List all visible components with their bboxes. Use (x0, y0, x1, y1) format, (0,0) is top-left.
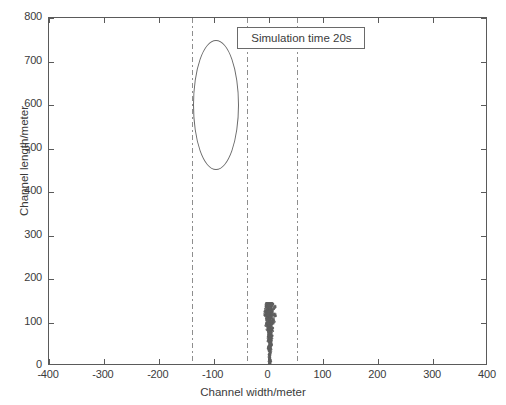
x-tick-mark-top (433, 18, 434, 23)
x-tick-mark (433, 359, 434, 364)
x-tick-mark-top (269, 18, 270, 23)
x-tick-mark (378, 359, 379, 364)
channel-boundary-left (192, 18, 193, 364)
x-tick-mark-top (214, 18, 215, 23)
y-tick-mark-right (481, 279, 486, 280)
y-tick-mark (49, 62, 54, 63)
y-tick-mark (49, 279, 54, 280)
concentration-contour (193, 40, 239, 171)
x-axis-label: Channel width/meter (0, 386, 506, 398)
y-tick-mark-right (481, 149, 486, 150)
y-tick-label: 300 (8, 228, 42, 240)
x-tick-label: 400 (465, 368, 506, 380)
x-tick-label: 300 (410, 368, 454, 380)
x-tick-label: -200 (136, 368, 180, 380)
y-tick-mark (49, 18, 54, 19)
x-tick-mark-top (104, 18, 105, 23)
x-tick-label: -300 (81, 368, 125, 380)
y-tick-label: 500 (8, 141, 42, 153)
x-tick-mark-top (159, 18, 160, 23)
x-tick-mark (323, 359, 324, 364)
y-tick-label: 800 (8, 10, 42, 22)
x-tick-mark (49, 359, 50, 364)
y-tick-mark (49, 192, 54, 193)
plot-area: Simulation time 20s (48, 17, 487, 365)
y-tick-mark (49, 323, 54, 324)
particle-plume (261, 302, 281, 365)
x-tick-label: -100 (191, 368, 235, 380)
x-tick-label: 200 (355, 368, 399, 380)
y-tick-mark (49, 149, 54, 150)
y-tick-label: 700 (8, 54, 42, 66)
y-tick-label: 600 (8, 97, 42, 109)
y-tick-mark-right (481, 323, 486, 324)
x-tick-mark-top (378, 18, 379, 23)
x-tick-mark (104, 359, 105, 364)
y-tick-mark (49, 105, 54, 106)
y-tick-label: 200 (8, 271, 42, 283)
y-tick-mark-right (481, 236, 486, 237)
simulation-time-label: Simulation time 20s (237, 27, 365, 49)
y-tick-mark-right (481, 18, 486, 19)
x-tick-mark (214, 359, 215, 364)
y-tick-mark-right (481, 105, 486, 106)
x-tick-label: 0 (246, 368, 290, 380)
x-tick-mark-top (323, 18, 324, 23)
channel-boundary-right (297, 18, 298, 364)
y-tick-mark-right (481, 192, 486, 193)
y-tick-label: 0 (8, 358, 42, 370)
channel-boundary-mid (247, 18, 248, 364)
x-tick-label: 100 (300, 368, 344, 380)
x-tick-mark (159, 359, 160, 364)
y-tick-mark (49, 236, 54, 237)
y-tick-label: 400 (8, 184, 42, 196)
y-tick-mark-right (481, 62, 486, 63)
figure-canvas: Channel length/meter Simulation time 20s… (0, 0, 506, 405)
y-tick-label: 100 (8, 315, 42, 327)
